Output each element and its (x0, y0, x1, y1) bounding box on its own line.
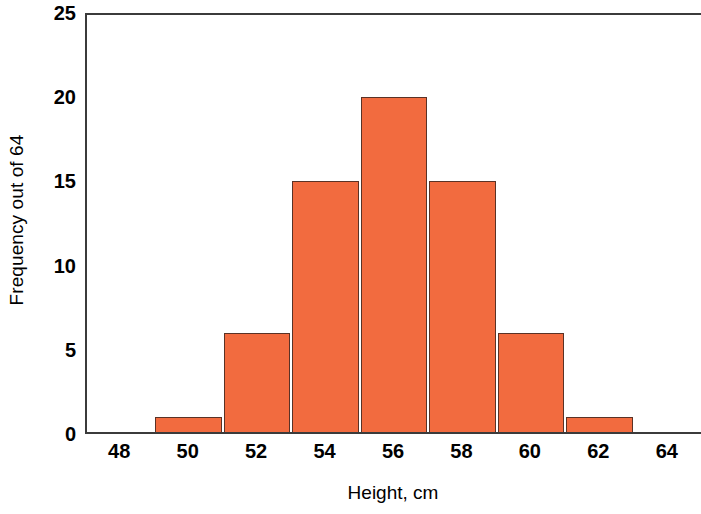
bar (429, 181, 495, 434)
bar (224, 333, 290, 434)
x-tick-label: 54 (313, 440, 335, 463)
y-axis-title: Frequency out of 64 (0, 0, 34, 440)
y-tick-label: 15 (54, 170, 76, 193)
x-tick-label: 60 (519, 440, 541, 463)
x-tick-label: 50 (177, 440, 199, 463)
x-axis-tick-labels: 485052545658606264 (0, 440, 701, 474)
y-tick-label: 20 (54, 86, 76, 109)
y-tick-label: 25 (54, 2, 76, 25)
bar (361, 97, 427, 434)
x-tick-label: 64 (656, 440, 678, 463)
bar (498, 333, 564, 434)
x-axis-title: Height, cm (85, 482, 701, 504)
bar (292, 181, 358, 434)
histogram-chart: Frequency out of 64 0510152025 485052545… (0, 0, 701, 514)
y-tick-label: 10 (54, 254, 76, 277)
bars-layer (87, 15, 701, 434)
x-tick-label: 58 (450, 440, 472, 463)
x-axis-line (85, 432, 701, 434)
y-axis-tick-labels: 0510152025 (34, 0, 80, 440)
y-axis-title-text: Frequency out of 64 (6, 135, 28, 306)
x-tick-label: 62 (587, 440, 609, 463)
x-tick-label: 48 (108, 440, 130, 463)
x-tick-label: 52 (245, 440, 267, 463)
plot-area (85, 13, 701, 434)
x-tick-label: 56 (382, 440, 404, 463)
y-tick-label: 5 (65, 338, 76, 361)
